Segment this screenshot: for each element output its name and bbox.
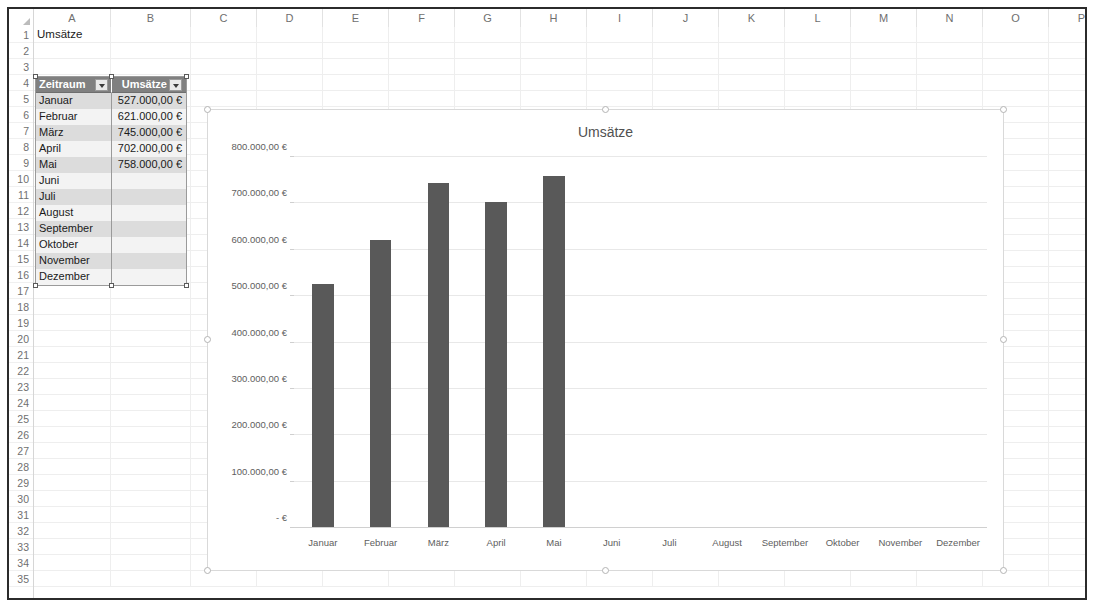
cell-C1[interactable] [191,27,257,43]
table-row[interactable]: Oktober [36,237,186,253]
row-header-29[interactable]: 29 [9,475,33,491]
row-header-35[interactable]: 35 [9,571,33,587]
chart-plot-area[interactable]: - €100.000,00 €200.000,00 €300.000,00 €4… [294,157,987,528]
cell-P8[interactable] [1049,139,1085,155]
row-header-6[interactable]: 6 [9,107,33,123]
cell-P34[interactable] [1049,555,1085,571]
chart-bar[interactable] [428,183,449,528]
cell-B29[interactable] [111,475,191,491]
cell-I5[interactable] [587,91,653,107]
cell-J4[interactable] [653,75,719,91]
column-header-M[interactable]: M [851,9,917,27]
row-header-24[interactable]: 24 [9,395,33,411]
table-cell-umsatz[interactable] [112,189,186,205]
row-header-14[interactable]: 14 [9,235,33,251]
cell-E4[interactable] [323,75,389,91]
cell-I3[interactable] [587,59,653,75]
chart-handle-top-center[interactable] [602,106,609,113]
table-cell-zeitraum[interactable]: Juli [36,189,112,205]
row-header-1[interactable]: 1 [9,27,33,43]
cell-A21[interactable] [34,347,111,363]
cell-B23[interactable] [111,379,191,395]
cell-P13[interactable] [1049,219,1085,235]
cell-L5[interactable] [785,91,851,107]
column-header-H[interactable]: H [521,9,587,27]
cell-A29[interactable] [34,475,111,491]
row-header-18[interactable]: 18 [9,299,33,315]
cell-F2[interactable] [389,43,455,59]
cell-A34[interactable] [34,555,111,571]
table-cell-zeitraum[interactable]: März [36,125,112,141]
cell-K35[interactable] [719,571,785,587]
cell-L3[interactable] [785,59,851,75]
cell-I2[interactable] [587,43,653,59]
table-cell-zeitraum[interactable]: Dezember [36,269,112,285]
cell-P16[interactable] [1049,267,1085,283]
chart-bar[interactable] [485,202,506,528]
cell-I1[interactable] [587,27,653,43]
cell-M4[interactable] [851,75,917,91]
table-row[interactable]: November [36,253,186,269]
cell-P12[interactable] [1049,203,1085,219]
row-header-23[interactable]: 23 [9,379,33,395]
cell-O1[interactable] [983,27,1049,43]
cell-P2[interactable] [1049,43,1085,59]
cell-F1[interactable] [389,27,455,43]
cell-J2[interactable] [653,43,719,59]
cell-E3[interactable] [323,59,389,75]
cell-B19[interactable] [111,315,191,331]
column-header-L[interactable]: L [785,9,851,27]
cell-A28[interactable] [34,459,111,475]
cell-B35[interactable] [111,571,191,587]
row-header-31[interactable]: 31 [9,507,33,523]
row-header-2[interactable]: 2 [9,43,33,59]
cell-B25[interactable] [111,411,191,427]
cell-A1[interactable]: Umsätze [34,27,111,43]
row-header-32[interactable]: 32 [9,523,33,539]
excel-table[interactable]: Zeitraum Umsätze Januar527.000,00 €Febru… [35,76,187,286]
cell-B24[interactable] [111,395,191,411]
cell-P35[interactable] [1049,571,1085,587]
table-handle-bottom-right[interactable] [184,283,189,288]
cell-P30[interactable] [1049,491,1085,507]
cell-L35[interactable] [785,571,851,587]
cell-P26[interactable] [1049,427,1085,443]
cell-B32[interactable] [111,523,191,539]
table-row[interactable]: Januar527.000,00 € [36,93,186,109]
cell-H4[interactable] [521,75,587,91]
cell-B30[interactable] [111,491,191,507]
table-cell-umsatz[interactable]: 702.000,00 € [112,141,186,157]
cell-B26[interactable] [111,427,191,443]
cell-P31[interactable] [1049,507,1085,523]
chart-handle-top-left[interactable] [204,106,211,113]
row-header-30[interactable]: 30 [9,491,33,507]
table-handle-top-center[interactable] [109,74,114,79]
table-row[interactable]: Mai758.000,00 € [36,157,186,173]
row-header-17[interactable]: 17 [9,283,33,299]
cell-A35[interactable] [34,571,111,587]
cell-C5[interactable] [191,91,257,107]
column-header-J[interactable]: J [653,9,719,27]
cell-P22[interactable] [1049,363,1085,379]
cell-N35[interactable] [917,571,983,587]
table-cell-umsatz[interactable] [112,173,186,189]
cell-B20[interactable] [111,331,191,347]
table-cell-zeitraum[interactable]: Oktober [36,237,112,253]
cell-E5[interactable] [323,91,389,107]
cell-E35[interactable] [323,571,389,587]
row-header-3[interactable]: 3 [9,59,33,75]
cell-J35[interactable] [653,571,719,587]
cell-M1[interactable] [851,27,917,43]
table-cell-umsatz[interactable] [112,205,186,221]
chart-handle-bottom-right[interactable] [1000,567,1007,574]
row-header-9[interactable]: 9 [9,155,33,171]
cell-K3[interactable] [719,59,785,75]
column-header-P[interactable]: P [1049,9,1087,27]
cell-B27[interactable] [111,443,191,459]
column-header-E[interactable]: E [323,9,389,27]
table-cell-zeitraum[interactable]: April [36,141,112,157]
column-header-B[interactable]: B [111,9,191,27]
cell-G3[interactable] [455,59,521,75]
cell-B18[interactable] [111,299,191,315]
cell-A3[interactable] [34,59,111,75]
